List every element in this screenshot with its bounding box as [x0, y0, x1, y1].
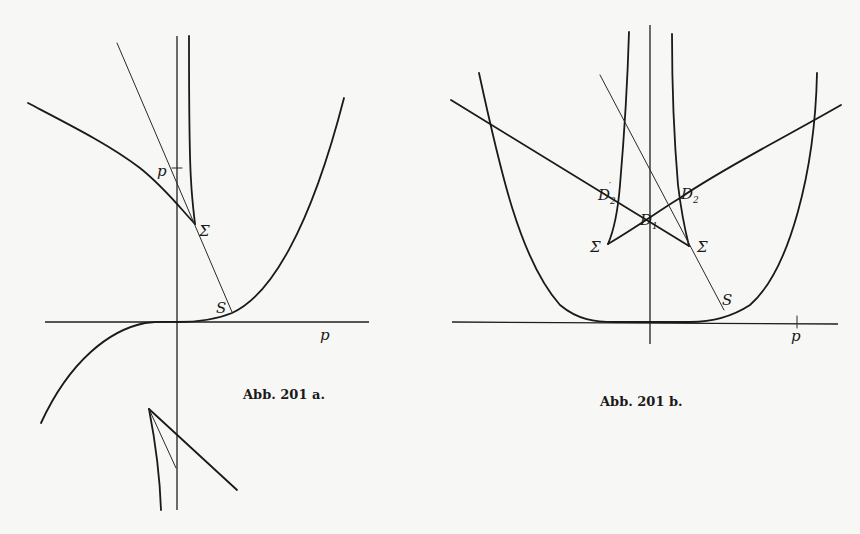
label-p-axis-a: p: [320, 326, 330, 344]
caption-201b: Abb. 201 b.: [600, 394, 683, 409]
label-s-b: S: [722, 291, 732, 309]
label-p-axis-b: p: [791, 327, 801, 345]
left-branch-a: [28, 103, 195, 224]
label-d2-prime: D2: [597, 186, 616, 206]
right-cusp-curve-b: [672, 34, 689, 246]
cusp-branch-a: [189, 36, 195, 224]
label-p-point-a: p: [157, 162, 167, 180]
figure-canvas: p Σ S p D2 ′ D2 D1 Σ Σ S p: [0, 0, 860, 534]
lower-cusp-line-a: [149, 409, 237, 490]
figure-201b: D2 ′ D2 D1 Σ Σ S p: [451, 25, 841, 345]
u-curve-b: [479, 73, 817, 322]
tangent-line-a: [117, 43, 232, 312]
figure-201a: p Σ S p: [28, 36, 369, 510]
label-sigma-a: Σ: [198, 222, 210, 240]
label-sigma-left-b: Σ: [589, 238, 601, 256]
label-s-a: S: [216, 299, 226, 317]
lower-cusp-left-a: [149, 409, 161, 510]
left-cusp-curve-b: [608, 32, 629, 244]
label-d2-prime-mark: ′: [609, 181, 611, 191]
caption-201a: Abb. 201 a.: [243, 387, 325, 402]
label-sigma-right-b: Σ: [696, 238, 708, 256]
cubic-curve-a: [41, 98, 344, 423]
lower-cusp-thin-a: [149, 409, 176, 468]
